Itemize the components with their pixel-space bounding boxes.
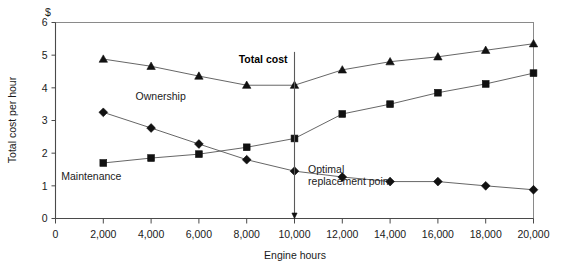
annotation-maintenance: Maintenance (61, 170, 121, 182)
series-line-maintenance (103, 73, 533, 163)
x-tick-label-20000: 20,000 (517, 228, 549, 240)
x-tick-label-14000: 14,000 (374, 228, 406, 240)
annotation-ownership: Ownership (136, 90, 186, 102)
y-axis-title: Total cost per hour (6, 76, 18, 163)
data-point-total-cost-2000 (99, 55, 107, 62)
annotation-total-cost: Total cost (239, 53, 288, 65)
data-point-maintenance-6000 (196, 151, 203, 158)
x-tick-label-16000: 16,000 (422, 228, 454, 240)
data-point-total-cost-20000 (529, 40, 537, 47)
data-point-maintenance-2000 (100, 160, 107, 167)
data-point-ownership-18000 (481, 181, 490, 190)
data-point-maintenance-18000 (482, 81, 489, 88)
data-point-maintenance-4000 (148, 155, 155, 162)
y-tick-label-4: 4 (42, 82, 48, 94)
x-tick-label-2000: 2,000 (90, 228, 116, 240)
cost-per-hour-chart: 0123456 02,0004,0006,0008,00010,00012,00… (0, 0, 570, 271)
x-tick-label-10000: 10,000 (278, 228, 310, 240)
series-line-total-cost (103, 44, 533, 85)
data-point-ownership-4000 (147, 124, 156, 133)
y-tick-label-0: 0 (42, 212, 48, 224)
y-tick-label-3: 3 (42, 114, 48, 126)
chart-canvas: 0123456 02,0004,0006,0008,00010,00012,00… (0, 0, 570, 271)
annotation-optimal-replacement-1: Optimal (308, 163, 344, 175)
data-point-ownership-16000 (434, 177, 443, 186)
x-tick-label-0: 0 (53, 228, 59, 240)
y-axis-ticks: 0123456 (42, 16, 56, 224)
y-axis-unit-label: $ (45, 6, 51, 18)
x-axis-title: Engine hours (264, 249, 326, 261)
x-axis-ticks: 02,0004,0006,0008,00010,00012,00014,0001… (53, 219, 550, 240)
data-point-ownership-6000 (195, 140, 204, 149)
x-tick-label-12000: 12,000 (326, 228, 358, 240)
data-point-ownership-20000 (529, 185, 538, 194)
data-point-maintenance-16000 (435, 89, 442, 96)
x-tick-label-18000: 18,000 (470, 228, 502, 240)
x-tick-label-6000: 6,000 (186, 228, 212, 240)
y-tick-label-5: 5 (42, 49, 48, 61)
chart-annotations: Total costOwnershipMaintenanceOptimalrep… (61, 53, 391, 187)
optimal-replacement-arrowhead-icon (292, 213, 297, 219)
data-point-ownership-2000 (99, 108, 108, 117)
data-point-maintenance-20000 (530, 70, 537, 77)
x-tick-label-4000: 4,000 (138, 228, 164, 240)
data-point-maintenance-14000 (387, 101, 394, 108)
x-tick-label-8000: 8,000 (234, 228, 260, 240)
y-tick-label-6: 6 (42, 16, 48, 28)
data-point-maintenance-12000 (339, 111, 346, 118)
annotation-optimal-replacement-2: replacement point (308, 175, 392, 187)
y-tick-label-2: 2 (42, 147, 48, 159)
y-tick-label-1: 1 (42, 180, 48, 192)
data-point-maintenance-8000 (243, 144, 250, 151)
data-point-ownership-8000 (242, 155, 251, 164)
